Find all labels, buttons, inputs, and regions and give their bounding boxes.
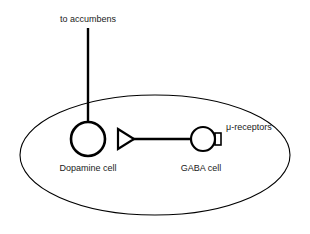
enclosing-region-ellipse bbox=[20, 95, 290, 215]
circuit-diagram: to accumbens Dopamine cell GABA cell μ-r… bbox=[0, 0, 310, 234]
projection-label: to accumbens bbox=[60, 14, 117, 24]
diagram-canvas: to accumbens Dopamine cell GABA cell μ-r… bbox=[0, 0, 310, 234]
gaba-cell-node bbox=[191, 127, 215, 151]
triangle-arrowhead-icon bbox=[118, 129, 134, 149]
dopamine-cell-label: Dopamine cell bbox=[59, 163, 116, 173]
dopamine-cell-node bbox=[71, 122, 105, 156]
mu-receptors-label: μ-receptors bbox=[226, 122, 272, 132]
gaba-cell-label: GABA cell bbox=[181, 163, 222, 173]
